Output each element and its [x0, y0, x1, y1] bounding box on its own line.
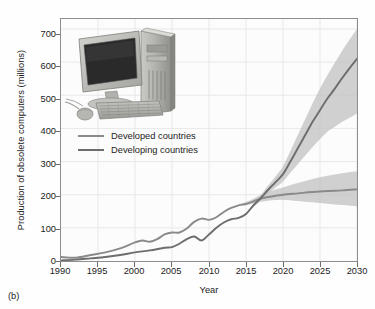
y-axis-tick-labels: 700 600 500 400 300 200 100 0 [12, 0, 56, 309]
legend-swatch-developed [78, 135, 104, 137]
x-tick-2010: 2010 [189, 266, 229, 276]
figure-panel: Production of obsolete computers (millio… [0, 0, 375, 309]
x-tick-2030: 2030 [337, 266, 375, 276]
y-tick-300: 300 [16, 159, 56, 169]
legend-label-developed: Developed countries [111, 131, 196, 141]
x-tick-1990: 1990 [40, 266, 80, 276]
legend-swatch-developing [78, 149, 104, 151]
plot-area: Developed countries Developing countries [60, 18, 358, 262]
y-tick-0: 0 [16, 256, 56, 266]
y-tick-500: 500 [16, 94, 56, 104]
x-tick-2025: 2025 [300, 266, 340, 276]
x-tick-2020: 2020 [263, 266, 303, 276]
y-tick-600: 600 [16, 61, 56, 71]
x-tick-2005: 2005 [151, 266, 191, 276]
chart-legend: Developed countries Developing countries [78, 129, 198, 157]
x-tick-1995: 1995 [77, 266, 117, 276]
y-tick-400: 400 [16, 126, 56, 136]
y-tick-100: 100 [16, 224, 56, 234]
desktop-computer-inset-icon [63, 23, 185, 127]
legend-label-developing: Developing countries [111, 145, 198, 155]
panel-letter: (b) [8, 291, 19, 301]
x-axis-title: Year [60, 285, 358, 295]
y-tick-200: 200 [16, 191, 56, 201]
legend-item-developed: Developed countries [78, 129, 198, 143]
x-tick-2015: 2015 [226, 266, 266, 276]
legend-item-developing: Developing countries [78, 143, 198, 157]
y-tick-700: 700 [16, 29, 56, 39]
x-tick-2000: 2000 [114, 266, 154, 276]
